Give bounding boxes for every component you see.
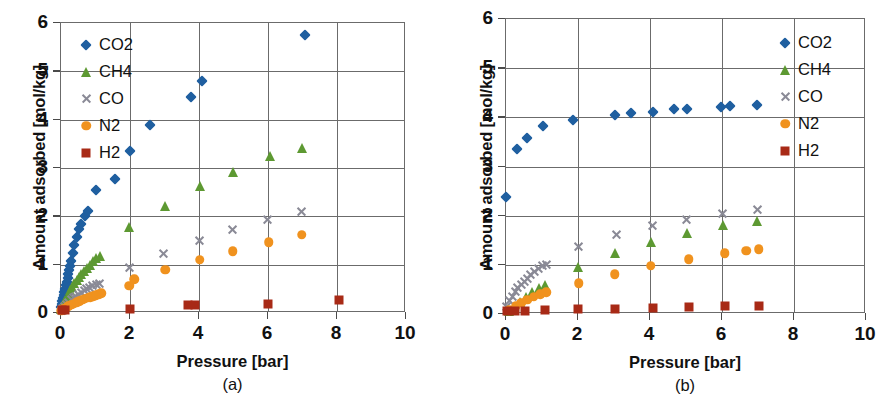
data-point-h2	[540, 306, 549, 315]
data-point-co	[158, 248, 169, 259]
y-axis-tick-label: 0	[18, 301, 48, 323]
y-axis-tick-label: 1	[18, 253, 48, 275]
data-point-n2	[741, 246, 751, 256]
legend-swatch-co2	[78, 37, 94, 53]
data-point-ch4	[646, 237, 656, 247]
data-point-co	[124, 262, 135, 273]
legend-swatch-ch4	[777, 62, 793, 78]
legend-item-ch4[interactable]: CH4	[777, 57, 832, 82]
x-axis-tick-label: 8	[788, 323, 799, 345]
data-point-n2	[754, 244, 764, 254]
figure-adsorption-isotherms: Amount adsorbed [mol/kg] 01234560246810 …	[0, 0, 894, 397]
legend-item-co2[interactable]: CO2	[777, 30, 832, 55]
gridline-vertical	[337, 23, 338, 311]
diamond-marker-icon	[80, 39, 91, 50]
gridline-horizontal	[61, 265, 404, 266]
y-axis-tick-label: 3	[18, 156, 48, 178]
legend-item-h2[interactable]: H2	[777, 138, 832, 163]
y-axis-tick	[53, 22, 60, 23]
y-axis-tick-label: 4	[463, 105, 493, 127]
data-point-h2	[61, 305, 70, 314]
x-axis-tick-label: 10	[394, 322, 415, 344]
y-axis-tick-label: 2	[463, 204, 493, 226]
panel-caption-a: (a)	[60, 375, 405, 394]
y-axis-tick	[53, 70, 60, 71]
data-point-h2	[335, 296, 344, 305]
x-axis-tick	[865, 313, 866, 320]
legend-item-n2[interactable]: N2	[78, 113, 133, 138]
data-point-h2	[511, 306, 520, 315]
gridline-horizontal	[506, 265, 864, 266]
x-axis-tick-label: 10	[854, 323, 875, 345]
legend-label: H2	[99, 143, 120, 162]
legend-label: H2	[798, 141, 819, 160]
x-axis-tick	[405, 312, 406, 319]
y-axis-tick	[53, 119, 60, 120]
x-axis-tick-label: 6	[262, 322, 273, 344]
x-axis-tick-label: 4	[644, 323, 655, 345]
data-point-ch4	[160, 201, 170, 211]
data-point-ch4	[297, 143, 307, 153]
diamond-marker-icon	[779, 37, 790, 48]
x-axis-tick	[577, 313, 578, 320]
panel-a: Amount adsorbed [mol/kg] 01234560246810 …	[0, 0, 447, 397]
data-point-n2	[264, 238, 274, 248]
data-point-ch4	[124, 222, 134, 232]
x-axis-tick-label: 6	[716, 323, 727, 345]
legend-swatch-co	[777, 89, 793, 105]
legend-label: CO	[99, 89, 124, 108]
data-point-co	[681, 214, 692, 225]
y-axis-tick	[53, 167, 60, 168]
data-point-h2	[610, 304, 619, 313]
legend-a: CO2CH4CON2H2	[78, 32, 133, 165]
legend-item-co[interactable]: CO	[777, 84, 832, 109]
y-axis-tick	[498, 166, 505, 167]
x-axis-title-b: Pressure [bar]	[505, 353, 865, 372]
legend-item-ch4[interactable]: CH4	[78, 59, 133, 84]
data-point-co	[611, 229, 622, 240]
legend-swatch-ch4	[78, 64, 94, 80]
data-point-n2	[720, 248, 730, 258]
gridline-horizontal	[61, 216, 404, 217]
data-point-ch4	[95, 251, 105, 261]
y-axis-tick	[53, 215, 60, 216]
y-axis-tick-label: 2	[18, 204, 48, 226]
legend-label: CO2	[99, 35, 133, 54]
y-axis-tick	[498, 215, 505, 216]
data-point-h2	[263, 299, 272, 308]
panel-b: Amount adsorbed [mol/kg] 01234560246810 …	[447, 0, 894, 397]
legend-item-n2[interactable]: N2	[777, 111, 832, 136]
y-axis-tick-label: 0	[463, 302, 493, 324]
x-axis-tick	[267, 312, 268, 319]
data-point-ch4	[718, 220, 728, 230]
data-point-n2	[610, 269, 620, 279]
gridline-vertical	[199, 23, 200, 311]
data-point-h2	[648, 303, 657, 312]
data-point-n2	[97, 288, 107, 298]
circle-marker-icon	[780, 119, 790, 129]
legend-item-h2[interactable]: H2	[78, 140, 133, 165]
data-point-n2	[160, 265, 170, 275]
data-point-n2	[542, 288, 552, 298]
square-marker-icon	[82, 148, 91, 157]
x-axis-tick	[336, 312, 337, 319]
data-point-h2	[573, 305, 582, 314]
x-axis-tick-label: 0	[55, 322, 66, 344]
gridline-vertical	[268, 23, 269, 311]
y-axis-tick-label: 5	[18, 59, 48, 81]
x-axis-tick-label: 2	[572, 323, 583, 345]
legend-b: CO2CH4CON2H2	[777, 30, 832, 163]
cross-marker-icon	[780, 91, 791, 102]
x-axis-tick	[198, 312, 199, 319]
data-point-n2	[129, 274, 139, 284]
legend-item-co[interactable]: CO	[78, 86, 133, 111]
data-point-ch4	[195, 181, 205, 191]
x-axis-tick	[793, 313, 794, 320]
legend-label: CO2	[798, 33, 832, 52]
x-axis-tick-label: 8	[331, 322, 342, 344]
data-point-ch4	[752, 216, 762, 226]
legend-item-co2[interactable]: CO2	[78, 32, 133, 57]
data-point-h2	[520, 306, 529, 315]
y-axis-tick-label: 5	[463, 56, 493, 78]
data-point-h2	[190, 301, 199, 310]
